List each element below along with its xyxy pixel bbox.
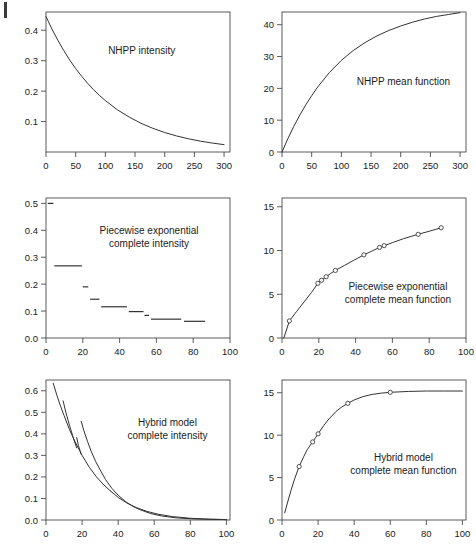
x-tick-label: 0: [43, 528, 48, 539]
data-point-marker: [311, 440, 315, 444]
x-tick-label: 100: [333, 160, 349, 171]
chart-nhpp-intensity: 0501001502002503000.10.20.30.4NHPP inten…: [6, 4, 236, 186]
plot-annotation: NHPP mean function: [357, 76, 450, 87]
x-tick-label: 50: [70, 160, 81, 171]
x-tick-label: 20: [313, 528, 324, 539]
y-tick-label: 5: [269, 289, 274, 300]
data-point-marker: [316, 432, 320, 436]
plot-annotation: NHPP intensity: [108, 45, 175, 56]
chart-hybrid-model-complete-mean-function: 020406080100051015Hybrid modelcomplete m…: [242, 372, 472, 550]
y-tick-label: 10: [263, 430, 274, 441]
x-tick-label: 60: [387, 346, 398, 357]
plot-annotation: complete mean function: [350, 465, 456, 476]
y-tick-label: 15: [263, 201, 274, 212]
panel-nhpp-intensity: 0501001502002503000.10.20.30.4NHPP inten…: [6, 4, 236, 186]
x-tick-label: 150: [363, 160, 379, 171]
x-tick-label: 60: [385, 528, 396, 539]
chart-piecewise-exponential-complete-intensity: 0204060801000.00.10.20.30.40.5Piecewise …: [6, 190, 236, 370]
data-point-marker: [333, 268, 337, 272]
chart-piecewise-exponential-complete-mean-function: 020406080100051015Piecewise exponentialc…: [242, 190, 472, 370]
x-tick-label: 300: [216, 160, 232, 171]
panel-hybrid-intensity: 0204060801000.00.10.20.30.40.50.6Hybrid …: [6, 372, 236, 550]
y-tick-label: 0.1: [25, 116, 38, 127]
x-tick-label: 40: [349, 528, 360, 539]
y-tick-label: 0.4: [25, 225, 38, 236]
plot-annotation: Hybrid model: [374, 452, 433, 463]
x-tick-label: 0: [279, 346, 284, 357]
data-point-marker: [382, 244, 386, 248]
x-tick-label: 50: [306, 160, 317, 171]
x-tick-label: 0: [43, 160, 48, 171]
chart-nhpp-mean-function: 050100150200250300010203040NHPP mean fun…: [242, 4, 472, 186]
y-tick-label: 30: [263, 51, 274, 62]
x-tick-label: 20: [78, 346, 89, 357]
plot-annotation: complete intensity: [109, 238, 189, 249]
plot-annotation: complete intensity: [127, 430, 207, 441]
x-tick-label: 40: [113, 528, 124, 539]
y-tick-label: 0.3: [25, 450, 38, 461]
x-tick-label: 250: [422, 160, 438, 171]
data-point-marker: [388, 390, 392, 394]
x-tick-label: 60: [149, 528, 160, 539]
data-point-marker: [324, 275, 328, 279]
y-tick-label: 0.0: [25, 333, 38, 344]
plot-annotation: Hybrid model: [138, 417, 197, 428]
plot-frame: [282, 380, 466, 520]
x-tick-label: 0: [279, 160, 284, 171]
y-tick-label: 40: [263, 19, 274, 30]
y-tick-label: 0: [269, 333, 274, 344]
x-tick-label: 80: [188, 346, 199, 357]
plot-grid: 0501001502002503000.10.20.30.4NHPP inten…: [0, 0, 476, 552]
data-point-marker: [362, 253, 366, 257]
x-tick-label: 300: [452, 160, 468, 171]
y-tick-label: 0.0: [25, 515, 38, 526]
y-tick-label: 0.2: [25, 279, 38, 290]
x-tick-label: 100: [218, 528, 234, 539]
y-tick-label: 0.3: [25, 55, 38, 66]
x-tick-label: 200: [157, 160, 173, 171]
data-point-marker: [316, 281, 320, 285]
panel-piecewise-intensity: 0204060801000.00.10.20.30.40.5Piecewise …: [6, 190, 236, 370]
plot-annotation: Piecewise exponential: [348, 281, 447, 292]
y-tick-label: 0.1: [25, 306, 38, 317]
y-tick-label: 10: [263, 245, 274, 256]
panel-nhpp-mean-function: 050100150200250300010203040NHPP mean fun…: [242, 4, 472, 186]
x-tick-label: 80: [421, 528, 432, 539]
x-tick-label: 20: [314, 346, 325, 357]
data-point-marker: [297, 464, 301, 468]
curve-main-branch: [53, 383, 111, 491]
x-tick-label: 80: [424, 346, 435, 357]
y-tick-label: 15: [263, 387, 274, 398]
plot-annotation: Piecewise exponential: [100, 225, 199, 236]
x-tick-label: 0: [279, 528, 284, 539]
figure-page: 0501001502002503000.10.20.30.4NHPP inten…: [0, 0, 476, 552]
data-point-marker: [416, 232, 420, 236]
x-tick-label: 100: [454, 528, 470, 539]
x-tick-label: 100: [222, 346, 238, 357]
y-tick-label: 0.3: [25, 252, 38, 263]
y-tick-label: 0.4: [25, 25, 38, 36]
y-tick-label: 0.6: [25, 385, 38, 396]
curve-restart-1: [63, 401, 77, 448]
curve-tail-branch: [111, 491, 226, 519]
y-tick-label: 0.1: [25, 493, 38, 504]
plot-frame: [46, 198, 230, 338]
x-tick-label: 100: [458, 346, 474, 357]
y-tick-label: 0.5: [25, 407, 38, 418]
panel-hybrid-mean-function: 020406080100051015Hybrid modelcomplete m…: [242, 372, 472, 550]
curve-main: [46, 17, 224, 145]
x-tick-label: 40: [114, 346, 125, 357]
panel-piecewise-mean-function: 020406080100051015Piecewise exponentialc…: [242, 190, 472, 370]
y-tick-label: 20: [263, 83, 274, 94]
x-tick-label: 60: [151, 346, 162, 357]
y-tick-label: 0.5: [25, 198, 38, 209]
data-point-marker: [346, 401, 350, 405]
y-tick-label: 0.2: [25, 471, 38, 482]
y-tick-label: 0.4: [25, 428, 38, 439]
data-point-marker: [319, 278, 323, 282]
x-tick-label: 100: [97, 160, 113, 171]
y-tick-label: 0: [269, 515, 274, 526]
data-point-marker: [377, 245, 381, 249]
y-tick-label: 0: [269, 147, 274, 158]
x-tick-label: 200: [393, 160, 409, 171]
